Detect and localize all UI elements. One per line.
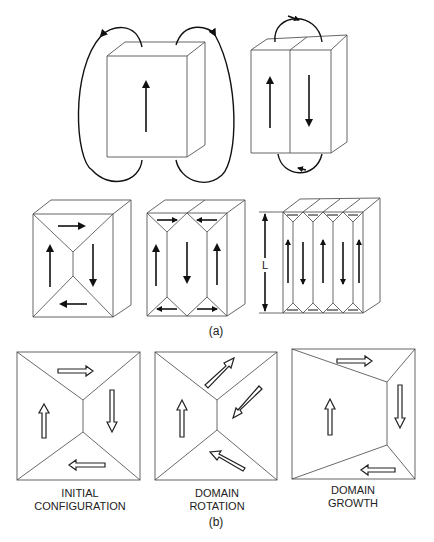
closure-domain-block-3: L bbox=[259, 198, 380, 313]
part-b-label: (b) bbox=[209, 515, 224, 529]
hollow-up-arrow-icon bbox=[39, 404, 49, 438]
two-domain-block bbox=[251, 16, 347, 173]
hollow-up-arrow-icon bbox=[177, 400, 187, 437]
initial-configuration-square bbox=[17, 352, 140, 480]
caption-initial-line1: INITIAL bbox=[61, 487, 98, 499]
hollow-up-arrow-icon bbox=[325, 399, 335, 435]
caption-rotation-line1: DOMAIN bbox=[195, 487, 239, 499]
closure-domain-block-1 bbox=[33, 200, 131, 317]
stray-field-loop-icon bbox=[278, 154, 322, 173]
hollow-down-arrow-icon bbox=[107, 390, 117, 432]
hollow-diagonal-arrow-icon bbox=[205, 358, 234, 388]
magnetic-domain-diagram: L (a) INITIAL CONFIGURATION DOMAIN ROTAT… bbox=[0, 0, 434, 542]
hollow-diagonal-arrow-icon bbox=[233, 386, 262, 418]
hollow-down-arrow-icon bbox=[395, 385, 405, 428]
domain-rotation-square bbox=[155, 352, 277, 480]
dimension-label-L: L bbox=[262, 259, 268, 271]
hollow-left-arrow-icon bbox=[69, 460, 105, 470]
caption-rotation-line2: ROTATION bbox=[189, 500, 244, 512]
caption-initial-line2: CONFIGURATION bbox=[34, 500, 126, 512]
part-a-label: (a) bbox=[209, 324, 224, 338]
caption-growth-line1: DOMAIN bbox=[331, 484, 375, 496]
single-domain-block bbox=[78, 27, 233, 182]
domain-growth-square bbox=[292, 349, 415, 479]
hollow-diagonal-arrow-icon bbox=[210, 451, 245, 471]
hollow-right-arrow-icon bbox=[337, 356, 372, 366]
stray-field-loop-icon bbox=[101, 28, 142, 47]
hollow-right-arrow-icon bbox=[58, 366, 93, 376]
closure-domain-block-2 bbox=[147, 200, 245, 316]
caption-growth-line2: GROWTH bbox=[328, 497, 378, 509]
hollow-left-arrow-icon bbox=[361, 465, 395, 475]
